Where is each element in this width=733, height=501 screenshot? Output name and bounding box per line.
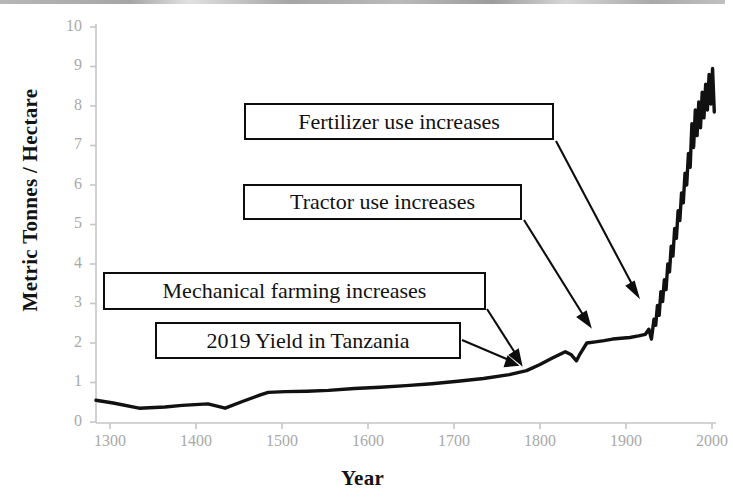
- x-axis-title: Year: [0, 466, 725, 491]
- annotation-fertilizer[interactable]: Fertilizer use increases: [244, 103, 554, 140]
- y-tick-4: 4: [52, 254, 82, 272]
- x-tick-2000: 2000: [682, 432, 733, 450]
- annotation-mechanical-label: Mechanical farming increases: [163, 278, 427, 304]
- annotation-fertilizer-label: Fertilizer use increases: [298, 109, 500, 135]
- annotation-tanzania[interactable]: 2019 Yield in Tanzania: [155, 322, 461, 359]
- y-tick-6: 6: [52, 175, 82, 193]
- x-tick-1300: 1300: [80, 432, 140, 450]
- annotation-tractor[interactable]: Tractor use increases: [243, 184, 522, 220]
- annotation-arrows: [462, 141, 638, 366]
- y-axis-ticks: [90, 27, 96, 422]
- annotation-tractor-label: Tractor use increases: [290, 189, 475, 215]
- x-tick-1900: 1900: [596, 432, 656, 450]
- y-tick-0: 0: [52, 412, 82, 430]
- y-tick-3: 3: [52, 293, 82, 311]
- y-tick-2: 2: [52, 333, 82, 351]
- x-tick-1600: 1600: [338, 432, 398, 450]
- arrow-tractor: [524, 220, 590, 326]
- annotation-tanzania-label: 2019 Yield in Tanzania: [206, 328, 409, 354]
- x-tick-1800: 1800: [510, 432, 570, 450]
- y-axis-title-text: Metric Tonnes / Hectare: [18, 89, 42, 312]
- annotation-mechanical[interactable]: Mechanical farming increases: [103, 272, 486, 310]
- x-axis-ticks: [110, 423, 712, 429]
- axis-lines: [96, 24, 716, 423]
- arrow-mechanical: [487, 309, 521, 364]
- arrow-fertilizer: [556, 141, 638, 296]
- x-tick-1500: 1500: [252, 432, 312, 450]
- y-tick-10: 10: [52, 17, 82, 35]
- y-tick-5: 5: [52, 214, 82, 232]
- y-tick-8: 8: [52, 96, 82, 114]
- x-tick-1400: 1400: [166, 432, 226, 450]
- y-tick-1: 1: [52, 372, 82, 390]
- y-tick-9: 9: [52, 56, 82, 74]
- x-tick-1700: 1700: [424, 432, 484, 450]
- y-tick-7: 7: [52, 135, 82, 153]
- y-axis-title: Metric Tonnes / Hectare: [18, 75, 48, 325]
